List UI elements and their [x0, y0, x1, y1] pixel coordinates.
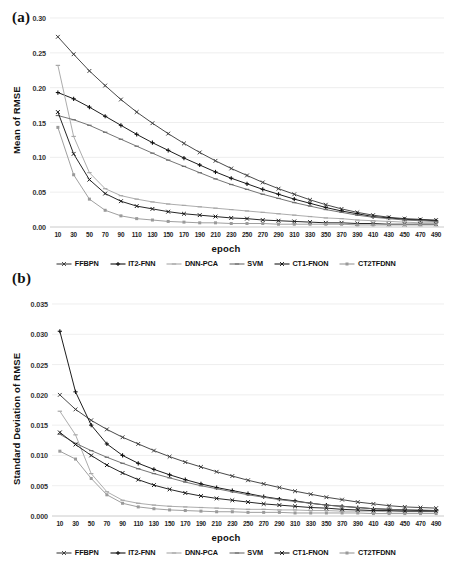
- chart-b-canvas: [0, 284, 452, 574]
- chart-a-xtick: 10: [55, 231, 62, 238]
- chart-b-xtick: 270: [259, 520, 269, 527]
- chart-b-ytick: 0.000: [0, 512, 48, 521]
- legend-item-dnn-pca[interactable]: DNN-PCA: [166, 259, 217, 268]
- legend-swatch-ffbpn-icon: [56, 260, 72, 268]
- legend-swatch-svm-icon: [229, 260, 245, 268]
- chart-b-xtick: 170: [180, 520, 190, 527]
- chart-a-xtick: 230: [226, 231, 236, 238]
- chart-b-xtick: 50: [88, 520, 95, 527]
- chart-b-xtick: 30: [72, 520, 79, 527]
- chart-b-ytick: 0.025: [0, 360, 48, 369]
- legend-swatch-it2-fnn-icon: [110, 260, 126, 268]
- panel-a-plot-area: 0.000.050.100.150.200.250.30103050709011…: [0, 0, 452, 284]
- legend-item-dnn-pca[interactable]: DNN-PCA: [166, 548, 217, 557]
- legend-swatch-dnn-pca-icon: [166, 549, 182, 557]
- chart-b-xtick: 430: [384, 520, 394, 527]
- chart-b-xtick: 450: [400, 520, 410, 527]
- legend-item-svm[interactable]: SVM: [229, 548, 263, 557]
- chart-a-xtick: 70: [102, 231, 109, 238]
- legend-item-it2-fnn[interactable]: IT2-FNN: [110, 259, 156, 268]
- chart-a-canvas: [0, 0, 452, 284]
- chart-b-xtick: 110: [133, 520, 143, 527]
- chart-b-ytick: 0.015: [0, 421, 48, 430]
- legend-item-it2-fnn[interactable]: IT2-FNN: [110, 548, 156, 557]
- legend-item-svm[interactable]: SVM: [229, 259, 263, 268]
- legend-item-ct2tfdnn[interactable]: CT2TFDNN: [339, 548, 395, 557]
- chart-b-ytick: 0.020: [0, 390, 48, 399]
- chart-b-xtick: 330: [306, 520, 316, 527]
- legend-swatch-it2-fnn-icon: [110, 549, 126, 557]
- chart-a-ytick: 0.25: [0, 48, 46, 57]
- chart-b-xtick: 410: [368, 520, 378, 527]
- legend-swatch-ct1-fnon-icon: [274, 260, 290, 268]
- legend-swatch-ct2tfdnn-icon: [339, 260, 355, 268]
- series-IT2-FNN: [56, 90, 438, 222]
- chart-a-xtick: 250: [242, 231, 252, 238]
- chart-a-xtick: 270: [258, 231, 268, 238]
- chart-b-ytick: 0.035: [0, 300, 48, 309]
- chart-b-xtick: 310: [290, 520, 300, 527]
- chart-b-xtick: 490: [431, 520, 441, 527]
- chart-b-xtick: 190: [196, 520, 206, 527]
- chart-a-ytick: 0.05: [0, 188, 46, 197]
- chart-b-xtick: 350: [321, 520, 331, 527]
- chart-a-xtick: 390: [352, 231, 362, 238]
- legend-label: DNN-PCA: [185, 259, 218, 268]
- chart-a-xtick: 50: [86, 231, 93, 238]
- chart-a-xtick: 170: [179, 231, 189, 238]
- chart-b-x-axis-label: epoch: [0, 532, 452, 543]
- legend-item-ct1-fnon[interactable]: CT1-FNON: [274, 548, 329, 557]
- chart-a-xtick: 470: [415, 231, 425, 238]
- figure-rmse-comparison: (a) Mean of RMSE 0.000.050.100.150.200.2…: [0, 0, 452, 574]
- chart-a-ytick: 0.20: [0, 83, 46, 92]
- chart-a-xtick: 110: [132, 231, 142, 238]
- panel-b-plot-area: 0.0000.0050.0100.0150.0200.0250.0300.035…: [0, 284, 452, 574]
- chart-a-ytick: 0.10: [0, 153, 46, 162]
- chart-a-xtick: 310: [289, 231, 299, 238]
- legend-swatch-svm-icon: [229, 549, 245, 557]
- legend-label: IT2-FNN: [128, 259, 155, 268]
- legend-item-ct2tfdnn[interactable]: CT2TFDNN: [339, 259, 395, 268]
- chart-b-xtick: 230: [227, 520, 237, 527]
- chart-a-xtick: 350: [321, 231, 331, 238]
- chart-b-xtick: 10: [56, 520, 63, 527]
- legend-label: CT1-FNON: [292, 548, 328, 557]
- chart-a-xtick: 330: [305, 231, 315, 238]
- chart-b-ytick: 0.030: [0, 330, 48, 339]
- chart-a-xtick: 210: [210, 231, 220, 238]
- chart-a-xtick: 90: [118, 231, 125, 238]
- chart-a-ytick: 0.15: [0, 118, 46, 127]
- chart-b-ytick: 0.010: [0, 451, 48, 460]
- legend-label: CT2TFDNN: [358, 548, 396, 557]
- chart-a-xtick: 450: [400, 231, 410, 238]
- legend-swatch-ffbpn-icon: [56, 549, 72, 557]
- chart-a-xtick: 130: [147, 231, 157, 238]
- chart-b-legend: FFBPNIT2-FNNDNN-PCASVMCT1-FNONCT2TFDNN: [0, 548, 452, 557]
- series-FFBPN: [56, 35, 438, 222]
- chart-a-legend: FFBPNIT2-FNNDNN-PCASVMCT1-FNONCT2TFDNN: [0, 259, 452, 268]
- series-DNN-PCA: [58, 411, 439, 512]
- legend-label: IT2-FNN: [128, 548, 155, 557]
- legend-item-ct1-fnon[interactable]: CT1-FNON: [274, 259, 329, 268]
- chart-b-xtick: 250: [243, 520, 253, 527]
- legend-label: CT2TFDNN: [358, 259, 396, 268]
- chart-a-xtick: 410: [368, 231, 378, 238]
- chart-b-ytick: 0.005: [0, 481, 48, 490]
- legend-item-ffbpn[interactable]: FFBPN: [56, 548, 98, 557]
- gridlines: [52, 304, 444, 516]
- legend-label: FFBPN: [75, 548, 99, 557]
- series-CT1-FNON: [58, 431, 438, 514]
- legend-item-ffbpn[interactable]: FFBPN: [56, 259, 98, 268]
- legend-label: DNN-PCA: [185, 548, 218, 557]
- legend-label: FFBPN: [75, 259, 99, 268]
- panel-b: (b) Standard Deviation of RMSE 0.0000.00…: [0, 284, 452, 574]
- chart-a-xtick: 290: [273, 231, 283, 238]
- chart-b-xtick: 150: [165, 520, 175, 527]
- series-CT1-FNON: [56, 110, 438, 226]
- chart-a-xtick: 150: [163, 231, 173, 238]
- legend-label: CT1-FNON: [292, 259, 328, 268]
- chart-b-xtick: 470: [415, 520, 425, 527]
- legend-swatch-ct1-fnon-icon: [274, 549, 290, 557]
- chart-b-xtick: 390: [353, 520, 363, 527]
- series-DNN-PCA: [56, 65, 439, 222]
